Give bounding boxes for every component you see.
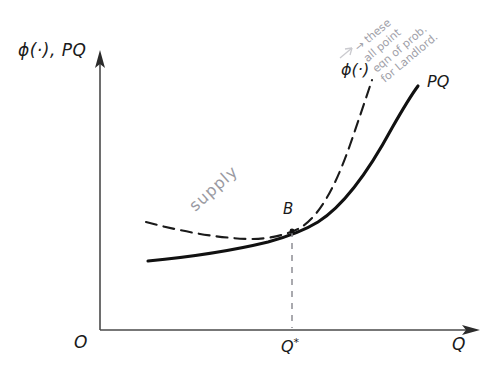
pq-curve-label: PQ [427,72,449,91]
phi-curve [146,80,372,239]
intersection-point-marker [290,229,295,234]
margin-note-arrow [340,48,352,58]
x-axis [100,325,480,335]
phi-curve-label: ϕ(·) [341,60,369,79]
intersection-point-label: B [283,200,293,218]
x-tick-superscript: * [294,336,300,349]
x-tick-label-q-star: Q* [281,336,299,356]
origin-label: O [74,332,87,352]
x-axis-title: Q [452,334,466,354]
pq-curve [148,86,418,261]
diagram-canvas: ϕ(·), PQ O Q* Q ϕ(·) PQ B supply → these… [0,0,494,374]
x-tick-label-text: Q [281,337,294,356]
y-axis-title: ϕ(·), PQ [18,40,86,60]
y-axis [95,50,105,330]
